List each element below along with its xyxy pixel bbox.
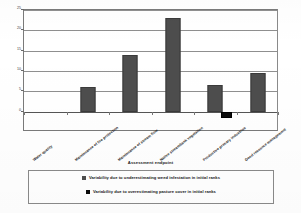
y-axis-tick-mark bbox=[21, 29, 24, 30]
y-axis-tick-label: 15 bbox=[8, 48, 21, 52]
y-axis-tick-label: 20 bbox=[8, 28, 21, 32]
bar-slot bbox=[152, 10, 195, 130]
legend-entry: Variability due to underestimating weed … bbox=[29, 176, 273, 180]
x-axis-tick-mark bbox=[237, 112, 238, 115]
bar-positive[interactable] bbox=[123, 55, 138, 112]
y-axis-tick-mark bbox=[21, 50, 24, 51]
bar-group bbox=[24, 10, 277, 130]
legend-entry-label: Variability due to overestimating pastur… bbox=[93, 190, 216, 194]
y-axis-tick-label: 25 bbox=[8, 7, 21, 11]
x-axis-tick-mark bbox=[194, 112, 195, 115]
y-axis-tick-mark bbox=[21, 9, 24, 10]
x-axis-tick-mark bbox=[24, 112, 25, 115]
x-axis-category-label: Maintenance of stream flow bbox=[118, 130, 159, 163]
x-axis-category-labels: Water qualityMaintenance of fire protect… bbox=[23, 131, 278, 163]
y-axis-tick-mark bbox=[21, 111, 24, 112]
x-axis-category-label: Good resource management bbox=[245, 129, 288, 163]
y-axis-tick-label: 10 bbox=[8, 68, 21, 72]
y-axis-tick-label: 0 bbox=[8, 109, 21, 113]
bar-negative[interactable] bbox=[221, 112, 232, 119]
y-axis-tick-mark bbox=[21, 70, 24, 71]
bar-slot bbox=[67, 10, 110, 130]
bar-slot bbox=[237, 10, 280, 130]
legend-swatch-icon bbox=[82, 176, 86, 180]
x-axis-tick-mark bbox=[278, 112, 279, 115]
y-axis-tick-label: 5 bbox=[8, 89, 21, 93]
bar-slot bbox=[194, 10, 237, 130]
x-axis-category-label: Maintenance of fire protection bbox=[75, 127, 120, 163]
x-axis-tick-mark bbox=[67, 112, 68, 115]
legend-swatch-icon bbox=[86, 190, 90, 194]
x-axis-tick-mark bbox=[152, 112, 153, 115]
legend-entry: Variability due to overestimating pastur… bbox=[29, 190, 273, 194]
bar-positive[interactable] bbox=[80, 87, 95, 111]
plot-area bbox=[23, 9, 278, 131]
legend: Variability due to underestimating weed … bbox=[28, 170, 274, 204]
bar-slot bbox=[24, 10, 67, 130]
bar-positive[interactable] bbox=[250, 73, 265, 112]
chart-page: 0510152025 Water qualityMaintenance of f… bbox=[0, 0, 301, 213]
legend-entry-label: Variability due to underestimating weed … bbox=[89, 176, 220, 180]
x-axis-title: Assessment endpoint bbox=[0, 160, 301, 165]
y-axis-tick-mark bbox=[21, 90, 24, 91]
x-axis-tick-mark bbox=[109, 112, 110, 115]
x-axis-category-label: Native streambank vegetation bbox=[160, 127, 205, 163]
bar-positive[interactable] bbox=[165, 18, 180, 112]
bar-positive[interactable] bbox=[208, 85, 223, 111]
x-axis-category-label: Productive primary industries bbox=[203, 127, 248, 163]
bar-slot bbox=[109, 10, 152, 130]
